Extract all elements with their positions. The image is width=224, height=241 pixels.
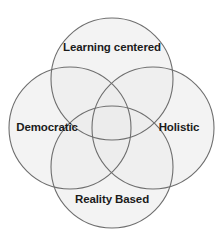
venn-canvas (0, 0, 224, 241)
venn-diagram: Learning centered Democratic Holistic Re… (0, 0, 224, 241)
circle-fill-reality-based (51, 106, 173, 228)
venn-circle-fills (9, 18, 214, 228)
